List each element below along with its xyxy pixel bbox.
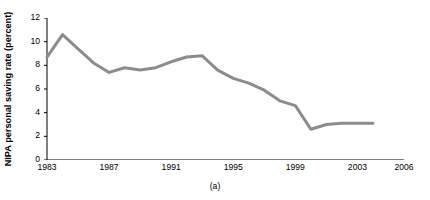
y-axis-label: NIPA personal saving rate (percent) xyxy=(0,18,16,160)
x-tick-label: 1991 xyxy=(162,162,181,172)
x-tick-label: 1999 xyxy=(286,162,305,172)
figure-caption: (a) xyxy=(0,181,430,191)
x-axis-tick-labels: 1983198719911995199920032006 xyxy=(44,162,404,176)
x-tick-label: 1987 xyxy=(100,162,119,172)
y-tick-label: 12 xyxy=(24,12,40,22)
x-tick-label: 1995 xyxy=(224,162,243,172)
chart-figure: NIPA personal saving rate (percent) 0246… xyxy=(0,0,430,200)
x-tick-label: 1983 xyxy=(37,162,56,172)
x-tick-label: 2003 xyxy=(348,162,367,172)
line-chart-svg xyxy=(44,18,404,160)
y-tick-label: 2 xyxy=(24,130,40,140)
data-series-line xyxy=(47,35,373,130)
y-tick-label: 6 xyxy=(24,83,40,93)
y-axis-label-text: NIPA personal saving rate (percent) xyxy=(3,12,13,167)
y-tick-label: 8 xyxy=(24,59,40,69)
y-axis-tick-labels: 024681012 xyxy=(22,18,40,160)
y-tick-label: 4 xyxy=(24,107,40,117)
plot-area xyxy=(44,18,404,160)
x-tick-label: 2006 xyxy=(394,162,413,172)
y-tick-label: 10 xyxy=(24,36,40,46)
